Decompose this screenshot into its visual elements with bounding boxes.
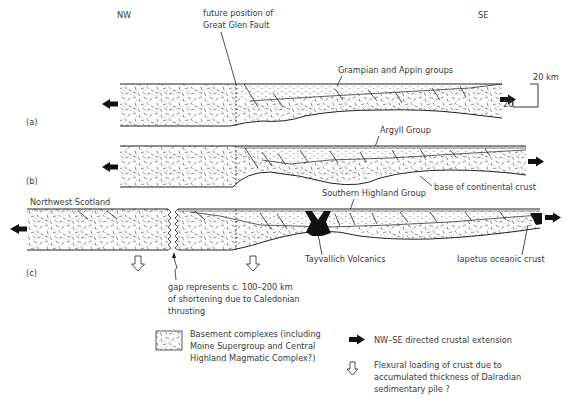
- great-glen-label-1: future position of: [203, 8, 274, 18]
- legend-flexural-line-2: accumulated thickness of Dalradian: [374, 372, 521, 382]
- gap-note-line-1: gap represents c. 100–200 km: [168, 282, 293, 292]
- iapetus-label: Iapetus oceanic crust: [457, 254, 545, 264]
- great-glen-leader: [221, 32, 236, 84]
- scale-bar-vertical-label: 20 km: [533, 72, 559, 82]
- legend: Basement complexes (including Moine Supe…: [156, 329, 521, 394]
- scale-bar-horizontal-label: 20: [503, 99, 513, 109]
- legend-flexural-arrow-icon: [347, 362, 358, 375]
- extension-arrow-left-b: [102, 162, 118, 172]
- northwest-scotland-label: Northwest Scotland: [30, 197, 110, 207]
- panel-c-label: (c): [26, 268, 37, 278]
- gap-note-line-3: thrusting: [168, 306, 205, 316]
- legend-basement-line-1: Basement complexes (including: [190, 329, 321, 339]
- great-glen-label-2: Great Glen Fault: [203, 20, 270, 30]
- panel-c: (c): [10, 209, 561, 280]
- legend-extension-label: NW–SE directed crustal extension: [374, 335, 512, 345]
- cross-section-diagram: NW SE future position of Great Glen Faul…: [0, 0, 574, 406]
- extension-arrow-left-a: [102, 99, 118, 109]
- panel-b: (b): [26, 146, 544, 187]
- panel-b-label: (b): [26, 176, 38, 186]
- extension-arrow-left-c: [10, 224, 27, 234]
- panel-c-basement-left: [27, 209, 168, 250]
- legend-basement-line-2: Moine Supergroup and Central: [190, 341, 315, 351]
- se-label: SE: [478, 10, 488, 20]
- grampian-appin-label: Grampian and Appin groups: [338, 65, 453, 75]
- flexural-arrow-right: [247, 256, 260, 271]
- extension-arrow-right-c: [545, 213, 561, 223]
- gap-note-line-2: of shortening due to Caledonian: [168, 294, 300, 304]
- legend-flexural-line-3: sedimentary pile ?: [374, 384, 450, 394]
- nw-label: NW: [117, 10, 131, 20]
- panel-a-label: (a): [26, 117, 37, 127]
- panel-a: (a): [26, 84, 516, 127]
- legend-flexural-line-1: Flexural loading of crust due to: [374, 360, 502, 370]
- extension-arrow-right-b: [528, 157, 544, 167]
- southern-highland-label: Southern Highland Group: [322, 188, 426, 198]
- flexural-arrow-left: [132, 256, 145, 271]
- argyll-group-label: Argyll Group: [380, 125, 431, 135]
- scale-bar: 20 km 20: [503, 72, 559, 109]
- legend-basement-line-3: Highland Magmatic Complex?): [190, 353, 315, 363]
- legend-basement-swatch: [156, 331, 182, 350]
- tayvallich-label: Tayvallich Volcanics: [304, 254, 386, 264]
- base-continental-crust-label: base of continental crust: [434, 182, 537, 192]
- legend-extension-arrow-icon: [349, 335, 365, 345]
